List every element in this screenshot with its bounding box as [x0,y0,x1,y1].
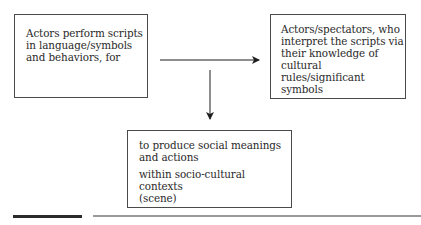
footer-rule-thin [93,215,421,217]
node-spectators-line: their knowledge of [281,47,405,59]
node-spectators: Actors/spectators, who interpret the scr… [270,14,406,99]
footer-rule-thick [13,215,82,218]
node-meanings-line: and actions [139,151,199,163]
node-meanings-line: within socio-cultural contexts [139,168,245,192]
node-meanings-paragraph-1: to produce social meanings and actions [139,139,291,163]
node-meanings: to produce social meanings and actions w… [127,130,292,208]
node-actors: Actors perform scripts in language/symbo… [14,14,148,98]
node-spectators-line: cultural rules/significant [281,59,405,83]
node-spectators-line: symbols [281,83,405,95]
node-meanings-line: to produce social meanings [139,139,281,151]
node-actors-line: Actors perform scripts [26,27,147,39]
node-actors-line: in language/symbols [26,39,147,51]
node-meanings-line: (scene) [139,192,177,204]
node-spectators-line: Actors/spectators, who [281,23,405,35]
node-spectators-line: interpret the scripts via [281,35,405,47]
node-actors-line: and behaviors, for [26,51,147,63]
node-meanings-paragraph-2: within socio-cultural contexts (scene) [139,168,291,204]
